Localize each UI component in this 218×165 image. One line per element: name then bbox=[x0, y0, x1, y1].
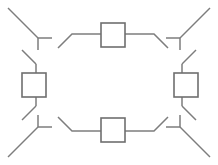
diagram-svg bbox=[0, 0, 218, 165]
right-lower-outward-diagonal bbox=[182, 106, 196, 120]
left-upper-outward-diagonal bbox=[22, 50, 36, 64]
nodes-group bbox=[22, 23, 198, 142]
left-square bbox=[22, 73, 46, 97]
right-upper-outward-diagonal bbox=[182, 50, 196, 64]
top-left-rise-into-top-square bbox=[58, 34, 101, 48]
right-square bbox=[174, 73, 198, 97]
bottom-left-drop-into-bottom-square bbox=[58, 117, 101, 131]
bottom-left-outward-diagonal bbox=[8, 127, 38, 157]
top-right-rise-into-top-square bbox=[125, 34, 168, 48]
top-square bbox=[101, 23, 125, 47]
bottom-square bbox=[101, 118, 125, 142]
top-right-outward-diagonal bbox=[180, 8, 210, 38]
left-lower-outward-diagonal bbox=[22, 106, 36, 120]
bottom-right-outward-diagonal bbox=[180, 127, 210, 157]
top-left-outward-diagonal bbox=[8, 8, 38, 38]
diagram-canvas bbox=[0, 0, 218, 165]
bottom-right-drop-into-bottom-square bbox=[125, 117, 168, 131]
